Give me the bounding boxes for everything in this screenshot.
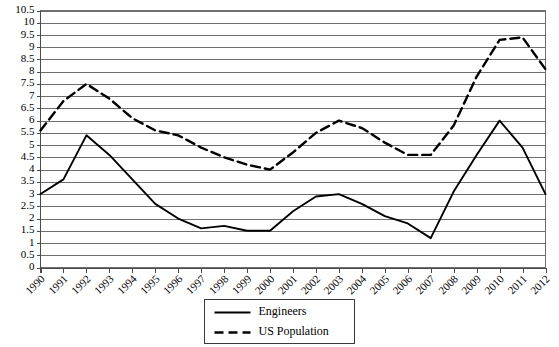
- x-axis-tick-label: 1992: [69, 272, 93, 296]
- x-axis-tick-labels: 1990199119921993199419951996199719981999…: [23, 272, 552, 296]
- y-axis-tick-label: 7.5: [21, 76, 35, 88]
- y-axis-tick-label: 6.5: [21, 101, 35, 113]
- x-axis-tick-label: 1999: [229, 272, 253, 296]
- x-axis-tick-label: 2002: [298, 272, 322, 296]
- y-axis-tick-label: 8: [29, 64, 35, 76]
- series-line-engineers: [41, 121, 546, 238]
- y-axis-tick-label: 4.5: [21, 150, 35, 162]
- x-axis-tick-label: 2007: [413, 272, 437, 296]
- y-axis-tick-label: 1: [29, 236, 35, 248]
- legend-label-us-population: US Population: [259, 324, 329, 338]
- y-axis-tick-label: 9.5: [21, 28, 35, 40]
- y-axis-tick-label: 8.5: [21, 52, 35, 64]
- x-axis-tick-label: 2011: [505, 272, 529, 296]
- y-axis-tick-label: 10: [24, 15, 36, 27]
- x-axis-tick-label: 2006: [390, 272, 414, 296]
- x-axis-tick-label: 1991: [46, 272, 70, 296]
- y-axis-tick-labels: 00.511.522.533.544.555.566.577.588.599.5…: [15, 3, 40, 272]
- x-axis-tick-label: 1995: [138, 272, 162, 296]
- y-axis-tick-label: 3.5: [21, 174, 35, 186]
- x-axis-tick-label: 2004: [344, 272, 368, 296]
- x-axis-tick-label: 2000: [252, 272, 276, 296]
- plot-border: [41, 11, 546, 268]
- legend-label-engineers: Engineers: [259, 304, 307, 318]
- x-axis-tick-label: 2005: [367, 272, 391, 296]
- y-axis-tick-label: 2.5: [21, 199, 35, 211]
- y-axis-tick-label: 4: [29, 162, 35, 174]
- x-axis-tick-label: 2012: [528, 272, 552, 296]
- gridlines: [41, 12, 546, 269]
- y-axis-tick-label: 10.5: [15, 3, 35, 15]
- x-axis-tick-label: 2003: [321, 272, 345, 296]
- y-axis-tick-label: 5: [29, 138, 35, 150]
- x-axis-tick-label: 1997: [184, 272, 208, 296]
- line-chart: 00.511.522.533.544.555.566.577.588.599.5…: [0, 0, 559, 347]
- x-axis-tick-label: 2009: [459, 272, 483, 296]
- series-line-us-population: [41, 37, 546, 169]
- data-series: [41, 37, 546, 238]
- y-axis-tick-label: 5.5: [21, 125, 35, 137]
- y-axis-tick-label: 6: [29, 113, 35, 125]
- y-axis-tick-label: 9: [29, 40, 35, 52]
- x-axis-tick-label: 1996: [161, 272, 185, 296]
- y-axis-tick-label: 0: [29, 260, 35, 272]
- x-axis-tick-label: 2010: [482, 272, 506, 296]
- x-axis-tick-label: 1994: [115, 272, 139, 296]
- chart-canvas: 00.511.522.533.544.555.566.577.588.599.5…: [0, 0, 559, 347]
- x-axis-tick-label: 1993: [92, 272, 116, 296]
- y-axis-tick-label: 7: [29, 89, 35, 101]
- y-axis-tick-label: 0.5: [21, 248, 35, 260]
- x-axis-tick-label: 2008: [436, 272, 460, 296]
- y-axis-tick-label: 3: [29, 187, 35, 199]
- x-axis-tick-label: 1990: [23, 272, 47, 296]
- y-axis-tick-label: 2: [29, 211, 35, 223]
- x-axis-tick-label: 1998: [207, 272, 231, 296]
- y-axis-tick-label: 1.5: [21, 223, 35, 235]
- chart-legend: EngineersUS Population: [205, 300, 355, 344]
- x-axis-tick-label: 2001: [275, 272, 299, 296]
- plot-area-frame: [41, 11, 546, 273]
